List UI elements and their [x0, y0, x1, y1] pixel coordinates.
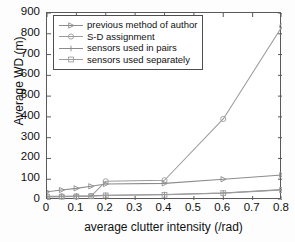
legend-label: sensors used separately [87, 55, 190, 65]
legend-label: S-D assignment [87, 32, 155, 42]
data-point-marker [68, 45, 74, 51]
x-axis-title: average clutter intensity (/rad) [46, 220, 281, 234]
chart-figure: 0100200300400500600700800900 Average WD … [0, 0, 295, 242]
legend-marker-plus-icon [58, 43, 84, 54]
legend-marker-triangle-right-icon [58, 20, 84, 31]
y-tick-label: 200 [0, 151, 40, 162]
x-tick-label: 0.3 [119, 201, 149, 213]
legend-marker-circle-icon [58, 31, 84, 42]
y-axis-title: Average WD (m) [12, 15, 26, 147]
legend-item: S-D assignment [58, 31, 197, 42]
legend-item: sensors used in pairs [58, 43, 197, 54]
series-0 [47, 172, 282, 194]
x-tick-label: 0.1 [60, 201, 90, 213]
x-tick-label: 0.2 [90, 201, 120, 213]
x-tick-label: 0 [31, 201, 61, 213]
x-tick-label: 0.4 [149, 201, 179, 213]
legend-label: previous method of author [87, 20, 197, 30]
legend-marker-square-icon [58, 54, 84, 65]
chart-legend: previous method of authorS-D assignments… [53, 15, 203, 70]
x-tick-label: 0.5 [178, 201, 208, 213]
legend-item: sensors used separately [58, 54, 197, 65]
y-tick-label: 100 [0, 172, 40, 183]
legend-label: sensors used in pairs [87, 43, 177, 53]
x-tick-label: 0.7 [237, 201, 267, 213]
x-tick-label: 0.8 [266, 201, 295, 213]
x-tick-label: 0.6 [207, 201, 237, 213]
legend-item: previous method of author [58, 20, 197, 31]
